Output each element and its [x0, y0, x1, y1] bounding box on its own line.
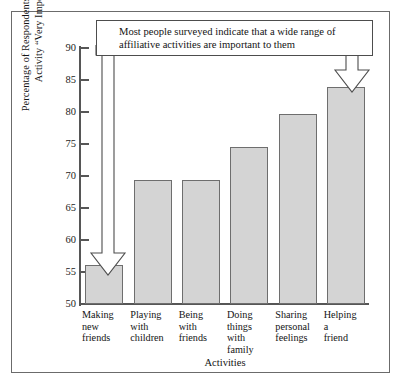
annotation-arrow-left	[88, 45, 148, 295]
y-axis-tick-label-text: 60	[56, 235, 76, 246]
x-axis-category-label: Playingwithchildren	[130, 309, 176, 344]
x-axis-category-label: Makingnewfriends	[82, 309, 128, 344]
y-axis-tick-label-text: 90	[56, 43, 76, 54]
bar	[327, 87, 365, 304]
x-axis-category-label: Beingwithfriends	[179, 309, 225, 344]
bar	[182, 180, 220, 304]
annotation-text: Most people surveyed indicate that a wid…	[119, 25, 369, 51]
y-axis-tick-label-text: 80	[56, 107, 76, 118]
y-axis-tick-label-text: 75	[56, 139, 76, 150]
y-axis-tick-label: 85	[54, 75, 76, 86]
x-axis-category-label: Sharingpersonalfeelings	[275, 309, 321, 344]
y-axis-tick-label: 65	[54, 203, 76, 214]
y-axis-tick-label: 80	[54, 107, 76, 118]
y-axis-tick-label-text: 65	[56, 203, 76, 214]
y-axis-tick-label: 50	[54, 299, 76, 310]
annotation-callout-box: Most people surveyed indicate that a wid…	[96, 20, 373, 56]
y-axis-tick-label-text: 55	[56, 267, 76, 278]
y-axis-tick-label-text: 85	[56, 75, 76, 86]
y-axis-tick-label-text: 70	[56, 171, 76, 182]
bar	[230, 147, 268, 304]
figure-canvas: 505560657075808590 MakingnewfriendsPlayi…	[0, 0, 402, 390]
x-axis-category-label: Doingthingswithfamily	[227, 309, 273, 355]
y-axis-tick-label: 60	[54, 235, 76, 246]
y-axis-tick-label-text: 50	[56, 299, 76, 310]
y-axis-tick-label: 90	[54, 43, 76, 54]
y-axis-tick-label: 55	[54, 267, 76, 278]
y-axis-tick-label: 75	[54, 139, 76, 150]
x-axis-title: Activities	[80, 357, 370, 368]
y-axis-title: Percentage of Respondents Rating Each Ac…	[20, 0, 46, 112]
x-axis-category-label: Helpingafriend	[324, 309, 370, 344]
y-axis-tick-label: 70	[54, 171, 76, 182]
bar	[279, 114, 317, 304]
